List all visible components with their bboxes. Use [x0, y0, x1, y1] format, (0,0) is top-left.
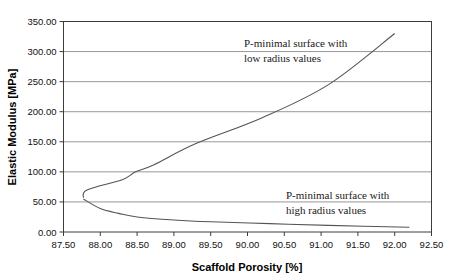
chart-figure: 0.0050.00100.00150.00200.00250.00300.003…	[0, 0, 457, 280]
y-axis-title: Elastic Modulus [MPa]	[6, 68, 18, 185]
annotation-low-radius-line2: low radius values	[244, 52, 321, 64]
annotation-high-radius-line1: P-minimal surface with	[286, 189, 390, 201]
y-tick-label: 100.00	[27, 166, 56, 177]
chart-background	[0, 0, 457, 280]
x-tick-label: 90.00	[236, 239, 260, 250]
x-tick-label: 90.50	[272, 239, 296, 250]
x-axis-title: Scaffold Porosity [%]	[192, 261, 303, 273]
y-tick-label: 350.00	[27, 16, 56, 27]
y-tick-label: 250.00	[27, 76, 56, 87]
elastic-modulus-vs-porosity-chart: 0.0050.00100.00150.00200.00250.00300.003…	[0, 0, 457, 280]
y-tick-label: 200.00	[27, 106, 56, 117]
x-tick-label: 92.50	[420, 239, 444, 250]
x-tick-label: 91.00	[309, 239, 333, 250]
y-tick-label: 50.00	[33, 196, 57, 207]
x-tick-label: 92.00	[383, 239, 407, 250]
y-tick-label: 0.00	[38, 227, 57, 238]
y-tick-label: 150.00	[27, 136, 56, 147]
x-tick-label: 89.00	[162, 239, 186, 250]
x-tick-label: 88.50	[125, 239, 149, 250]
annotation-low-radius-line1: P-minimal surface with	[244, 37, 348, 49]
x-tick-label: 91.50	[346, 239, 370, 250]
x-tick-label: 87.50	[52, 239, 76, 250]
x-axis-tick-labels: 87.5088.0088.5089.0089.5090.0090.5091.00…	[52, 239, 444, 250]
x-tick-label: 88.00	[88, 239, 112, 250]
x-tick-label: 89.50	[199, 239, 223, 250]
annotation-high-radius-line2: high radius values	[286, 204, 366, 216]
y-tick-label: 300.00	[27, 46, 56, 57]
